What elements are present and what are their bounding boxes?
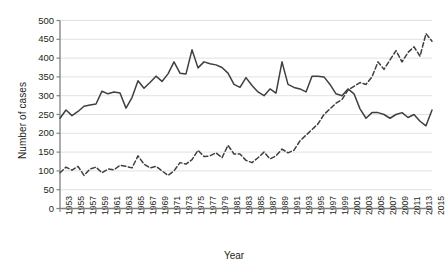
gridlines [60,21,432,190]
series-line-dashed [60,34,432,176]
